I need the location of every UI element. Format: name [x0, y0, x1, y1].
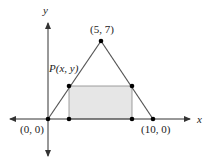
point-p: [67, 84, 72, 89]
inscribed-rectangle: [69, 86, 132, 119]
point-rect-top-right: [130, 84, 135, 89]
p-label: P(x, y): [48, 62, 79, 75]
point-rect-bottom-right: [130, 117, 135, 122]
point-right-base: [151, 117, 156, 122]
point-origin: [46, 117, 51, 122]
x-axis-label: x: [196, 113, 202, 125]
origin-label: (0, 0): [20, 123, 44, 136]
point-rect-bottom-left: [67, 117, 72, 122]
right-base-label: (10, 0): [141, 123, 171, 136]
y-axis-label: y: [42, 4, 48, 16]
diagram-canvas: y x (5, 7) P(x, y) (0, 0) (10, 0): [0, 0, 208, 164]
point-apex: [99, 39, 104, 44]
apex-label: (5, 7): [90, 23, 114, 36]
